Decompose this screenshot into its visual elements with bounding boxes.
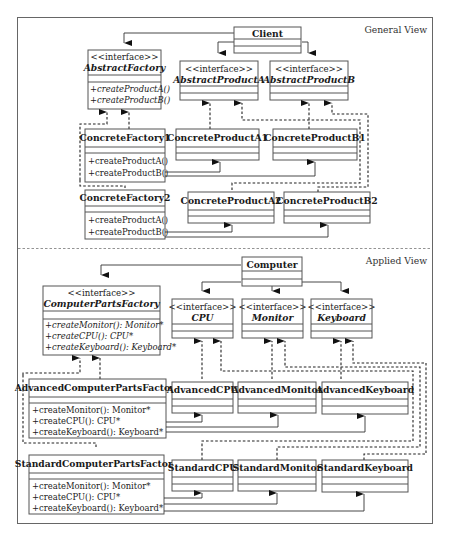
stereotype: <<interface>> [185, 64, 253, 74]
stereotype: <<interface>> [169, 302, 237, 312]
class-standard-monitor[interactable]: StandardMonitor [233, 460, 322, 491]
method: +createCPU(): CPU* [45, 331, 134, 341]
stereotype: <<interface>> [68, 288, 136, 298]
class-name: AdvancedComputerPartsFactory [14, 382, 181, 393]
class-monitor[interactable]: <<interface>> Monitor [239, 299, 307, 338]
general-view-label: General View [364, 24, 427, 35]
method: +createProductB() [88, 168, 168, 178]
method: +createProductB() [90, 95, 170, 105]
class-name: ConcreteFactory2 [80, 192, 171, 203]
factory2-associations [165, 225, 328, 237]
applied-view-label: Applied View [365, 255, 427, 266]
class-name: ConcreteProductA2 [181, 195, 282, 206]
class-name: StandardMonitor [233, 462, 322, 473]
class-name: ConcreteProductA1 [167, 132, 268, 143]
stereotype: <<interface>> [239, 302, 307, 312]
class-concrete-product-a1[interactable]: ConcreteProductA1 [167, 129, 268, 160]
class-name: AbstractProductA [172, 74, 265, 85]
class-name: ConcreteFactory1 [80, 132, 171, 143]
class-concrete-product-b2[interactable]: ConcreteProductB2 [276, 192, 377, 223]
method: +createCPU(): CPU* [32, 416, 121, 426]
method: +createKeyboard(): Keyboard* [32, 503, 164, 513]
class-advanced-keyboard[interactable]: AdvancedKeyboard [315, 382, 415, 414]
class-concrete-factory-1[interactable]: ConcreteFactory1 +createProductA() +crea… [80, 129, 171, 182]
class-advanced-cpu[interactable]: AdvancedCPU [166, 382, 239, 413]
method: +createMonitor(): Monitor* [45, 320, 164, 330]
class-advanced-computer-parts-factory[interactable]: AdvancedComputerPartsFactory +createMoni… [14, 379, 181, 438]
class-abstract-product-b[interactable]: <<interface>> AbstractProductB [262, 61, 355, 100]
class-name: AdvancedKeyboard [315, 384, 415, 395]
method: +createProductB() [88, 227, 168, 237]
class-standard-keyboard[interactable]: StandardKeyboard [317, 460, 413, 492]
method: +createProductA() [90, 84, 170, 94]
class-cpu[interactable]: <<interface>> CPU [169, 299, 237, 338]
class-name: AdvancedMonitor [230, 384, 322, 395]
class-client[interactable]: Client [234, 27, 301, 53]
method: +createProductA() [88, 156, 168, 166]
class-concrete-product-a2[interactable]: ConcreteProductA2 [181, 192, 282, 223]
class-standard-computer-parts-factory[interactable]: StandardComputerPartsFactory +createMoni… [15, 455, 179, 514]
class-computer-parts-factory[interactable]: <<interface>> ComputerPartsFactory +crea… [43, 286, 177, 355]
class-name: ComputerPartsFactory [43, 298, 160, 309]
class-name: StandardKeyboard [317, 462, 413, 473]
stereotype: <<interface>> [91, 52, 159, 62]
class-abstract-factory[interactable]: <<interface>> AbstractFactory +createPro… [83, 50, 171, 109]
class-name: StandardComputerPartsFactory [15, 458, 179, 469]
method: +createMonitor(): Monitor* [32, 481, 151, 491]
class-concrete-product-b1[interactable]: ConcreteProductB1 [264, 129, 365, 160]
class-advanced-monitor[interactable]: AdvancedMonitor [230, 382, 322, 413]
class-name: AbstractFactory [83, 62, 166, 73]
class-name: Keyboard [316, 312, 366, 323]
class-name: Client [252, 28, 284, 39]
class-abstract-product-a[interactable]: <<interface>> AbstractProductA [172, 61, 265, 100]
class-computer[interactable]: Computer [242, 257, 302, 286]
stereotype: <<interface>> [275, 64, 343, 74]
class-name: StandardCPU [168, 462, 237, 473]
class-name: ConcreteProductB1 [264, 132, 365, 143]
class-concrete-factory-2[interactable]: ConcreteFactory2 +createProductA() +crea… [80, 190, 171, 239]
advanced-factory-associations [166, 415, 365, 432]
factory1-associations [165, 162, 315, 176]
method: +createProductA() [88, 215, 168, 225]
standard-factory-associations [164, 493, 364, 511]
class-name: Computer [246, 259, 297, 270]
method: +createCPU(): CPU* [32, 492, 121, 502]
stereotype: <<interface>> [308, 302, 376, 312]
class-name: AbstractProductB [262, 74, 355, 85]
class-standard-cpu[interactable]: StandardCPU [168, 460, 237, 491]
class-name: CPU [191, 312, 214, 323]
method: +createMonitor(): Monitor* [32, 405, 151, 415]
class-name: ConcreteProductB2 [276, 195, 377, 206]
class-name: AdvancedCPU [166, 384, 239, 395]
method: +createKeyboard(): Keyboard* [45, 342, 177, 352]
class-keyboard[interactable]: <<interface>> Keyboard [308, 299, 376, 338]
method: +createKeyboard(): Keyboard* [32, 427, 164, 437]
uml-diagram: General View Applied View Client <<inter… [0, 0, 450, 540]
class-name: Monitor [251, 312, 295, 323]
